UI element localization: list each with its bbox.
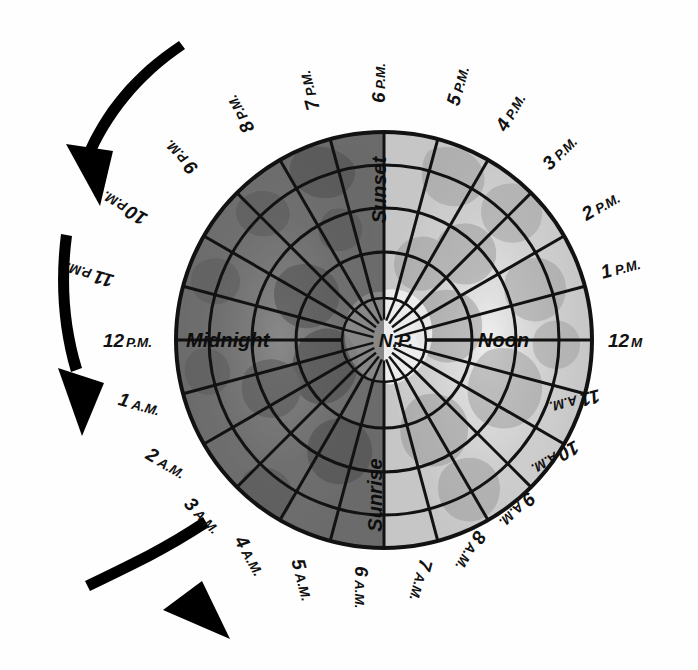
hour-suffix-1pm: P.M.: [613, 257, 642, 278]
hour-suffix-12m: M: [631, 335, 643, 350]
north-pole-label: N.P.: [379, 330, 414, 351]
hour-suffix-5am: A.M.: [292, 570, 314, 602]
hour-suffix-8am: A.M.: [452, 539, 480, 572]
hour-suffix-1am: A.M.: [129, 397, 161, 419]
hour-label-12m: 12 M: [608, 330, 643, 351]
hour-suffix-7pm: P.M.: [298, 69, 319, 98]
hour-num-1am: 1: [116, 388, 132, 411]
hour-suffix-2am: A.M.: [154, 454, 187, 482]
rotation-arrow-bottom: [85, 517, 230, 639]
hour-suffix-5pm: P.M.: [451, 65, 472, 94]
hour-num-12m: 12: [608, 330, 630, 351]
hour-suffix-12pm: P.M.: [126, 335, 152, 350]
hour-label-8pm: 8 P.M.: [220, 92, 258, 137]
hour-label-10pm: 10 P.M.: [98, 187, 151, 230]
noon-label: Noon: [478, 329, 529, 351]
hour-suffix-2pm: P.M.: [593, 191, 623, 217]
hour-label-11pm: 11 P.M.: [63, 259, 116, 292]
hour-label-2pm: 2 P.M.: [577, 186, 623, 225]
hour-label-3pm: 3 P.M.: [538, 131, 581, 174]
hour-suffix-3pm: P.M.: [551, 134, 580, 163]
sunrise-label: Sunrise: [364, 458, 386, 531]
hour-label-4pm: 4 P.M.: [491, 89, 530, 135]
hour-suffix-6am: A.M.: [352, 579, 367, 609]
hour-label-4am: 4 A.M.: [230, 531, 270, 579]
hour-num-6pm: 6: [368, 92, 389, 103]
hour-label-1pm: 1 P.M.: [598, 252, 642, 283]
hour-suffix-8pm: P.M.: [225, 92, 251, 122]
rotation-arrow-top: [66, 41, 185, 206]
hour-num-11pm: 11: [91, 266, 115, 291]
diagram-canvas: 12 M 1 P.M. 2 P.M. 3 P.M. 4 P.M.: [0, 0, 698, 670]
hour-label-7am: 7 A.M.: [405, 557, 436, 603]
hour-label-12pm: 12 P.M.: [103, 330, 152, 351]
hour-label-5am: 5 A.M.: [287, 556, 318, 602]
hour-label-6pm: 6 P.M.: [368, 63, 389, 103]
hour-suffix-4am: A.M.: [238, 546, 266, 579]
hour-label-9pm: 9 P.M.: [159, 136, 202, 179]
hour-label-5pm: 5 P.M.: [442, 64, 473, 108]
hour-label-2am: 2 A.M.: [142, 443, 190, 483]
hour-label-1am: 1 A.M.: [116, 388, 162, 419]
midnight-label: Midnight: [186, 329, 271, 351]
hour-suffix-10pm: P.M.: [100, 188, 130, 214]
hour-num-6am: 6: [351, 566, 372, 577]
hour-label-6am: 6 A.M.: [351, 566, 372, 609]
hour-suffix-9pm: P.M.: [162, 137, 191, 166]
rotation-diagram: 12 M 1 P.M. 2 P.M. 3 P.M. 4 P.M.: [0, 0, 698, 670]
hour-suffix-6pm: P.M.: [373, 63, 388, 89]
hour-num-12pm: 12: [103, 330, 125, 351]
hour-suffix-7am: A.M.: [406, 570, 428, 602]
hour-num-1pm: 1: [598, 260, 614, 283]
hour-suffix-4pm: P.M.: [503, 92, 529, 122]
sunset-label: Sunset: [368, 155, 390, 223]
hour-label-7pm: 7 P.M.: [293, 69, 324, 113]
